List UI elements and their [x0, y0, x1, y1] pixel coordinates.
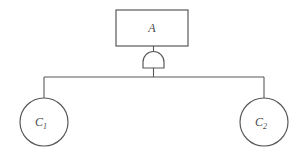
basic-event-label-2-subscript: 2: [263, 121, 267, 130]
fault-tree-diagram: A C1 C2: [0, 0, 303, 154]
and-gate-symbol[interactable]: [143, 52, 164, 69]
basic-event-label-1-subscript: 1: [43, 121, 47, 130]
top-event-label: A: [147, 21, 156, 35]
fault-tree-canvas: A C1 C2: [0, 0, 303, 154]
